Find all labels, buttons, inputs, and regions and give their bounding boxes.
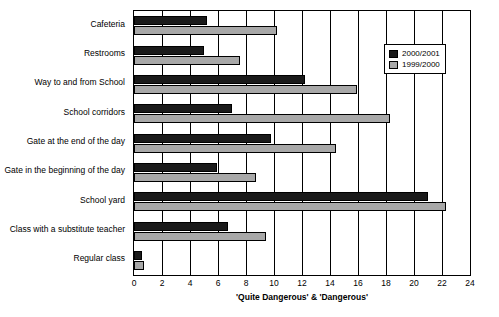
bar [134, 16, 207, 25]
x-axis-tick-labels: 024681012141618202224 [133, 278, 471, 290]
x-tick-label: 12 [292, 278, 312, 288]
bar [134, 192, 428, 201]
bar [134, 202, 446, 211]
bar [134, 75, 305, 84]
bar [134, 173, 256, 182]
x-tick-label: 14 [320, 278, 340, 288]
bar-chart: CafeteriaRestroomsWay to and from School… [0, 0, 499, 317]
x-axis-title: 'Quite Dangerous' & 'Dangerous' [133, 292, 471, 302]
legend-item-1: 1999/2000 [389, 59, 440, 70]
bar [134, 163, 217, 172]
x-tick-label: 0 [124, 278, 144, 288]
bar [134, 232, 266, 241]
bar [134, 104, 232, 113]
x-tick-label: 4 [180, 278, 200, 288]
category-label: Gate in the beginning of the day [4, 166, 125, 175]
x-tick-label: 2 [152, 278, 172, 288]
bar [134, 134, 271, 143]
category-label: Way to and from School [35, 78, 125, 87]
legend-item-0: 2000/2001 [389, 48, 440, 59]
legend-swatch-icon-1 [389, 61, 398, 69]
x-tick-label: 18 [376, 278, 396, 288]
x-tick-label: 20 [404, 278, 424, 288]
bar [134, 56, 240, 65]
category-label: Restrooms [84, 49, 125, 58]
bar [134, 144, 336, 153]
legend-label-1: 1999/2000 [402, 60, 440, 69]
legend-swatch-icon-0 [389, 50, 398, 58]
x-tick-label: 8 [236, 278, 256, 288]
bar [134, 114, 390, 123]
category-label: Class with a substitute teacher [10, 225, 125, 234]
x-tick-label: 24 [460, 278, 480, 288]
category-label: Cafeteria [91, 20, 126, 29]
bar [134, 222, 228, 231]
x-tick-label: 22 [432, 278, 452, 288]
category-label: School yard [80, 196, 125, 205]
category-axis-labels: CafeteriaRestroomsWay to and from School… [0, 10, 129, 276]
bar [134, 251, 142, 260]
bar [134, 85, 357, 94]
bar [134, 26, 277, 35]
legend: 2000/2001 1999/2000 [384, 44, 446, 74]
x-tick-label: 6 [208, 278, 228, 288]
bar [134, 261, 144, 270]
category-label: Regular class [74, 254, 126, 263]
legend-label-0: 2000/2001 [402, 49, 440, 58]
bar [134, 46, 204, 55]
x-tick-label: 10 [264, 278, 284, 288]
category-label: School corridors [64, 108, 125, 117]
x-tick-label: 16 [348, 278, 368, 288]
category-label: Gate at the end of the day [27, 137, 125, 146]
